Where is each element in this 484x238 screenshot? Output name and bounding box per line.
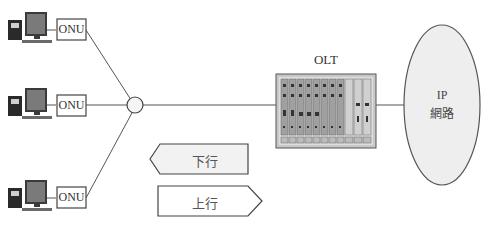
splitter-circle — [127, 97, 143, 113]
upstream-label: 上行 — [170, 193, 240, 212]
computer-icon — [8, 88, 52, 119]
downstream-label: 下行 — [170, 151, 240, 170]
olt-rack-icon — [276, 74, 376, 148]
ip-network-label-line2: 網路 — [412, 104, 472, 122]
onu-label-2: ONU — [57, 95, 86, 116]
computer-icon — [8, 180, 52, 211]
onu-label-3: ONU — [57, 187, 86, 208]
olt-label: OLT — [306, 52, 346, 68]
computer-icon — [8, 12, 52, 43]
onu-label-1: ONU — [57, 19, 86, 40]
ip-network-label-line1: IP — [412, 88, 472, 103]
